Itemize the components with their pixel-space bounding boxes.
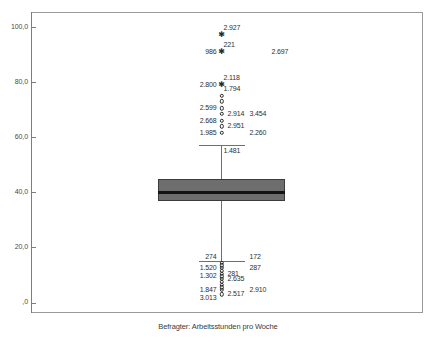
outlier-case-label: 1.985 bbox=[200, 129, 217, 137]
whisker-upper bbox=[221, 145, 222, 178]
chart-plot-frame bbox=[31, 12, 423, 313]
whisker-cap-upper bbox=[199, 145, 245, 146]
box-iqr bbox=[158, 179, 285, 201]
y-axis-tick-label: 60,0 bbox=[15, 133, 28, 140]
outlier-marker-extreme: ✱ bbox=[218, 48, 225, 56]
outlier-case-label: 2.914 bbox=[228, 110, 245, 118]
y-axis-tick bbox=[31, 27, 36, 28]
outlier-case-label: 2.910 bbox=[250, 286, 267, 294]
y-axis-tick-label-wrap: 20,0 bbox=[0, 243, 28, 252]
y-axis-tick-label: 100,0 bbox=[11, 23, 28, 30]
outlier-case-label: 2.260 bbox=[250, 129, 267, 137]
outlier-case-label: 221 bbox=[224, 41, 235, 49]
outlier-case-label: 274 bbox=[205, 253, 216, 261]
y-axis-tick-label: 80,0 bbox=[15, 78, 28, 85]
outlier-case-label: 3.013 bbox=[200, 294, 217, 302]
outlier-case-label: 1.794 bbox=[224, 85, 241, 93]
y-axis-tick-label: 20,0 bbox=[15, 243, 28, 250]
y-axis-tick-label-wrap: 100,0 bbox=[0, 23, 28, 32]
outlier-case-label: 2.800 bbox=[200, 81, 217, 89]
outlier-case-label: 1.847 bbox=[200, 286, 217, 294]
outlier-case-label: 2.927 bbox=[224, 24, 241, 32]
y-axis-tick-label-wrap: 40,0 bbox=[0, 188, 28, 197]
y-axis-tick-label: 40,0 bbox=[15, 188, 28, 195]
outlier-case-label: 2.951 bbox=[228, 122, 245, 130]
y-axis-tick-label: ,0 bbox=[22, 298, 28, 305]
outlier-case-label: 172 bbox=[250, 253, 261, 261]
outlier-case-label: 2.599 bbox=[200, 104, 217, 112]
y-axis-tick bbox=[31, 192, 36, 193]
outlier-case-label: 1.302 bbox=[200, 272, 217, 280]
outlier-case-label: 1.520 bbox=[200, 264, 217, 272]
y-axis-tick bbox=[31, 137, 36, 138]
y-axis-tick-label-wrap: 60,0 bbox=[0, 133, 28, 142]
outlier-case-label: 2.697 bbox=[272, 48, 289, 56]
boxplot-figure: 100,080,060,040,020,0,0 ✱2.927✱9862212.6… bbox=[0, 0, 436, 342]
y-axis-spine bbox=[31, 12, 32, 313]
outlier-case-label: 2.668 bbox=[200, 117, 217, 125]
x-axis-label: Befragter: Arbeitsstunden pro Woche bbox=[0, 322, 436, 331]
outlier-case-label: 2.635 bbox=[228, 275, 245, 283]
outlier-marker-extreme: ✱ bbox=[218, 31, 225, 39]
outlier-case-label: 287 bbox=[250, 264, 261, 272]
outlier-case-label: 1.481 bbox=[224, 147, 241, 155]
y-axis-tick-label-wrap: ,0 bbox=[0, 298, 28, 307]
median-line bbox=[158, 191, 285, 193]
y-axis-tick-label-wrap: 80,0 bbox=[0, 78, 28, 87]
y-axis-tick bbox=[31, 82, 36, 83]
outlier-case-label: 2.517 bbox=[228, 290, 245, 298]
outlier-case-label: 3.454 bbox=[250, 110, 267, 118]
whisker-lower bbox=[221, 201, 222, 262]
y-axis-tick bbox=[31, 247, 36, 248]
outlier-case-label: 986 bbox=[205, 48, 216, 56]
y-axis-tick bbox=[31, 303, 36, 304]
outlier-case-label: 2.118 bbox=[224, 74, 240, 82]
